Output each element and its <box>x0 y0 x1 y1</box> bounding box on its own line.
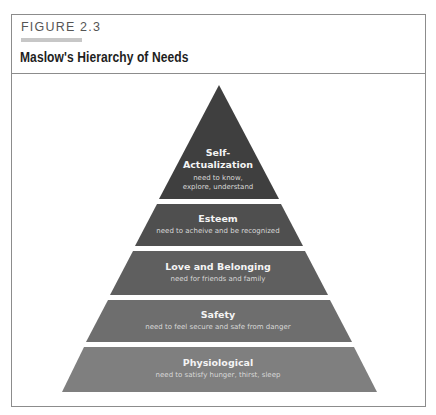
tier-name: Self- <box>0 147 436 159</box>
tier-desc: need to acheive and be recognized <box>0 227 436 236</box>
tier-name: Safety <box>0 309 436 321</box>
tier-physiological: Physiological need to satisfy hunger, th… <box>0 357 436 380</box>
tier-esteem: Esteem need to acheive and be recognized <box>0 213 436 236</box>
tier-desc: need to know, <box>0 174 436 183</box>
tier-desc: need to feel secure and safe from danger <box>0 323 436 332</box>
tier-name: Actualization <box>0 159 436 171</box>
tier-love-belonging: Love and Belonging need for friends and … <box>0 261 436 284</box>
tier-name: Physiological <box>0 357 436 369</box>
tier-self-actualization: Self- Actualization need to know, explor… <box>0 147 436 192</box>
tier-desc: need to satisfy hunger, thirst, sleep <box>0 371 436 380</box>
pyramid-diagram <box>0 0 436 415</box>
tier-desc: explore, understand <box>0 183 436 192</box>
tier-name: Love and Belonging <box>0 261 436 273</box>
tier-safety: Safety need to feel secure and safe from… <box>0 309 436 332</box>
tier-desc: need for friends and family <box>0 275 436 284</box>
tier-name: Esteem <box>0 213 436 225</box>
